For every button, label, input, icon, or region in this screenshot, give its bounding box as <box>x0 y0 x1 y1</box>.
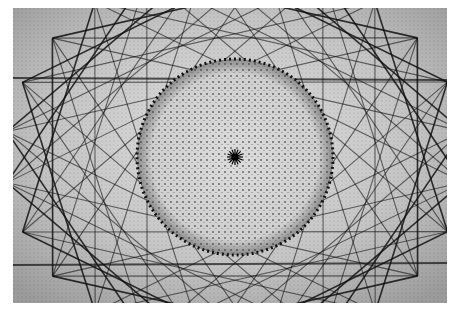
center-star <box>227 149 243 165</box>
geometric-pattern <box>13 8 447 303</box>
string-art-photo <box>13 8 447 303</box>
